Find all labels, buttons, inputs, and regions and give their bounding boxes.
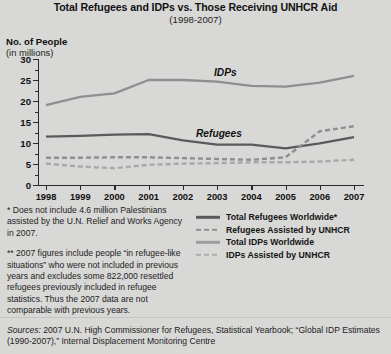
x-tick-label: 1999 — [70, 192, 91, 202]
chart-subtitle: (1998-2007) — [0, 14, 391, 25]
legend-label: Total Refugees Worldwide* — [226, 212, 337, 222]
legend-swatch-icon — [196, 237, 220, 248]
y-axis-caption: No. of People — [6, 36, 67, 47]
x-tick-label: 2003 — [207, 192, 228, 202]
plot-area: 051015202530 199819992000200120022003200… — [38, 59, 364, 190]
series-lines — [38, 59, 364, 190]
x-tick-label: 2004 — [241, 192, 262, 202]
series-line — [46, 76, 354, 105]
y-tick-label: 25 — [20, 75, 31, 86]
sources-text: 2007 U.N. High Commissioner for Refugees… — [7, 325, 380, 346]
chart-title: Total Refugees and IDPs vs. Those Receiv… — [0, 1, 391, 13]
y-tick-label: 0 — [26, 180, 31, 191]
footnote-2: ** 2007 figures include people “in refug… — [7, 248, 189, 316]
footnotes: * Does not include 4.6 million Palestini… — [7, 205, 189, 317]
sources-label: Sources: — [7, 325, 41, 335]
legend-item[interactable]: Total IDPs Worldwide — [196, 236, 388, 249]
y-tick-label: 20 — [20, 96, 31, 107]
x-tick-label: 2005 — [275, 192, 296, 202]
legend-label: Total IDPs Worldwide — [226, 237, 314, 247]
footnote-1: * Does not include 4.6 million Palestini… — [7, 205, 189, 239]
legend-item[interactable]: Refugees Assisted by UNHCR — [196, 224, 388, 237]
x-tick-label: 2000 — [104, 192, 125, 202]
legend-swatch-icon — [196, 224, 220, 235]
sources-note: Sources: 2007 U.N. High Commissioner for… — [7, 325, 387, 347]
y-tick-label: 10 — [20, 138, 31, 149]
x-tick-label: 2007 — [344, 192, 365, 202]
legend-swatch-icon — [196, 250, 220, 261]
x-tick-label: 1998 — [36, 192, 57, 202]
legend-item[interactable]: Total Refugees Worldwide* — [196, 211, 388, 224]
legend-label: IDPs Assisted by UNHCR — [226, 250, 330, 260]
x-tick-label: 2002 — [173, 192, 194, 202]
chart-legend: Total Refugees Worldwide*Refugees Assist… — [196, 211, 388, 261]
x-tick-label: 2006 — [309, 192, 330, 202]
annotation-refugees: Refugees — [196, 128, 242, 139]
legend-swatch-icon — [196, 212, 220, 223]
series-line — [46, 160, 354, 168]
legend-item[interactable]: IDPs Assisted by UNHCR — [196, 249, 388, 262]
annotation-idps: IDPs — [214, 67, 237, 78]
chart-figure: Total Refugees and IDPs vs. Those Receiv… — [0, 0, 391, 354]
divider — [0, 317, 391, 318]
x-tick-label: 2001 — [138, 192, 159, 202]
legend-label: Refugees Assisted by UNHCR — [226, 225, 350, 235]
y-tick-label: 15 — [20, 117, 31, 128]
y-tick-label: 30 — [20, 54, 31, 65]
y-tick-label: 5 — [26, 159, 31, 170]
